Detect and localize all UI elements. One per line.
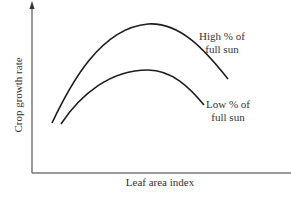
curve-label-low-line1: Low % of xyxy=(188,98,268,111)
y-axis-label: Crop growth rate xyxy=(12,57,24,132)
curve-label-high-line2: full sun xyxy=(182,43,262,56)
y-axis-arrow-icon xyxy=(30,1,35,9)
curve-label-high-line1: High % of xyxy=(182,30,262,43)
curve-label-high-sun: High % of full sun xyxy=(182,30,262,56)
x-axis-label: Leaf area index xyxy=(100,176,220,188)
curve-low-sun xyxy=(61,70,204,124)
curve-label-low-sun: Low % of full sun xyxy=(188,98,268,124)
curve-label-low-line2: full sun xyxy=(188,111,268,124)
